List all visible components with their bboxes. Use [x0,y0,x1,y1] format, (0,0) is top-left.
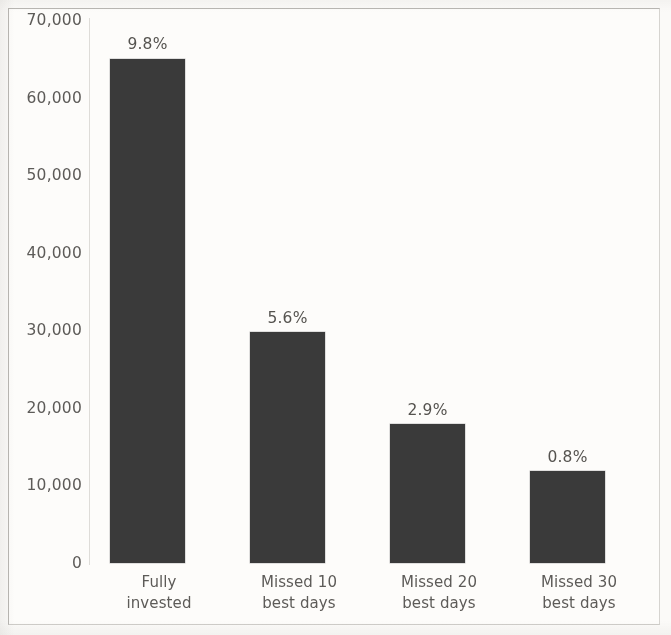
bar-missed-30-best-days [530,471,605,563]
x-category-label-fully-invested: Fully invested [80,572,238,614]
bar-label-missed-30-best-days: 0.8% [530,448,605,471]
y-tick-label: 0 [10,554,82,572]
x-category-line: Fully [80,572,238,593]
y-tick-label: 50,000 [10,166,82,184]
x-category-line: Missed 30 [500,572,658,593]
x-category-label-missed-20-best-days: Missed 20 best days [360,572,518,614]
x-category-label-missed-10-best-days: Missed 10 best days [220,572,378,614]
bar-chart: 70,000 60,000 50,000 40,000 30,000 20,00… [0,0,671,635]
bar-fully-invested [110,59,185,564]
x-category-line: best days [220,593,378,614]
y-axis: 70,000 60,000 50,000 40,000 30,000 20,00… [0,0,82,635]
y-tick-label: 20,000 [10,399,82,417]
bar-label-missed-10-best-days: 5.6% [250,309,325,332]
bar-missed-20-best-days [390,424,465,563]
y-tick-label: 40,000 [10,244,82,262]
bar-label-missed-20-best-days: 2.9% [390,401,465,424]
x-category-line: best days [360,593,518,614]
x-category-line: best days [500,593,658,614]
y-tick-label: 10,000 [10,476,82,494]
x-category-label-missed-30-best-days: Missed 30 best days [500,572,658,614]
y-tick-label: 30,000 [10,321,82,339]
x-category-line: invested [80,593,238,614]
y-tick-label: 70,000 [10,11,82,29]
plot-area: 9.8% 5.6% 2.9% 0.8% [89,18,645,563]
x-category-line: Missed 20 [360,572,518,593]
bar-label-fully-invested: 9.8% [110,35,185,58]
bar-missed-10-best-days [250,332,325,563]
x-category-line: Missed 10 [220,572,378,593]
y-tick-label: 60,000 [10,89,82,107]
